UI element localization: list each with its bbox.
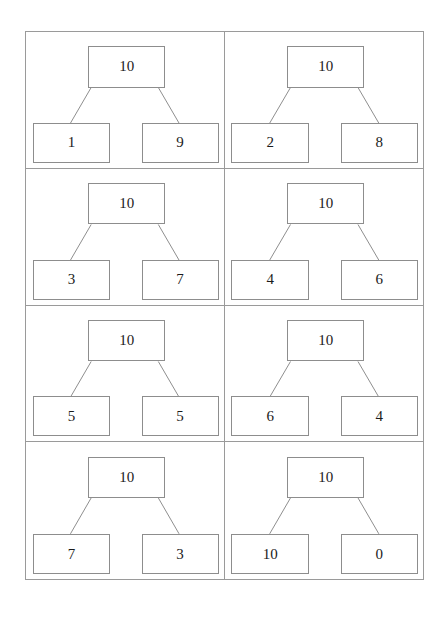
number-bond-diagram: 10 10 0 — [225, 442, 424, 579]
left-child-node: 10 — [231, 534, 308, 574]
number-bond-diagram: 10 3 7 — [26, 169, 224, 305]
number-bond-cell: 10 2 8 — [225, 32, 424, 169]
number-bond-diagram: 10 5 5 — [26, 306, 224, 442]
right-child-node: 3 — [142, 534, 219, 574]
number-bond-cell: 10 1 9 — [26, 32, 225, 169]
right-child-node: 6 — [341, 260, 418, 300]
number-bond-diagram: 10 2 8 — [225, 32, 424, 168]
parent-node: 10 — [88, 320, 165, 361]
parent-node: 10 — [287, 457, 364, 499]
parent-node: 10 — [287, 183, 364, 224]
number-bond-diagram: 10 1 9 — [26, 32, 224, 168]
left-child-node: 4 — [231, 260, 308, 300]
parent-node: 10 — [88, 457, 165, 499]
left-child-node: 1 — [33, 123, 110, 163]
number-bond-diagram: 10 6 4 — [225, 306, 424, 442]
number-bond-diagram: 10 4 6 — [225, 169, 424, 305]
left-child-node: 2 — [231, 123, 308, 163]
number-bond-worksheet-grid: 10 1 9 10 2 8 10 3 7 — [25, 31, 424, 580]
left-child-node: 7 — [33, 534, 110, 574]
number-bond-cell: 10 7 3 — [26, 442, 225, 579]
left-child-node: 5 — [33, 396, 110, 436]
number-bond-cell: 10 5 5 — [26, 306, 225, 443]
parent-node: 10 — [88, 183, 165, 224]
right-child-node: 5 — [142, 396, 219, 436]
number-bond-diagram: 10 7 3 — [26, 442, 224, 579]
right-child-node: 0 — [341, 534, 418, 574]
number-bond-cell: 10 4 6 — [225, 169, 424, 306]
number-bond-cell: 10 10 0 — [225, 442, 424, 579]
number-bond-cell: 10 6 4 — [225, 306, 424, 443]
right-child-node: 8 — [341, 123, 418, 163]
left-child-node: 6 — [231, 396, 308, 436]
number-bond-cell: 10 3 7 — [26, 169, 225, 306]
parent-node: 10 — [287, 320, 364, 361]
parent-node: 10 — [287, 46, 364, 87]
right-child-node: 9 — [142, 123, 219, 163]
left-child-node: 3 — [33, 260, 110, 300]
right-child-node: 7 — [142, 260, 219, 300]
parent-node: 10 — [88, 46, 165, 87]
right-child-node: 4 — [341, 396, 418, 436]
